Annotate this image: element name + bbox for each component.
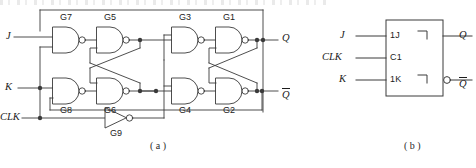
gate-g4-bubble	[198, 88, 204, 94]
gate-g2-bubble	[242, 88, 248, 94]
node-dot-g5-out	[138, 38, 142, 42]
node-dot-qbar-b	[260, 89, 264, 93]
output-label-qbar: Q	[282, 84, 290, 102]
node-dot-clk	[38, 116, 42, 120]
node-dot-g6-branch	[154, 89, 158, 93]
input-label-k: K	[5, 82, 12, 93]
symbol-b-out-bubble	[444, 77, 451, 84]
gate-g8-bubble	[79, 88, 85, 94]
symbol-b-output-label-qbar-text: Q	[459, 77, 467, 90]
gate-label-g4: G4	[179, 106, 191, 115]
gate-g8-body	[53, 78, 79, 104]
gate-label-g9: G9	[110, 129, 122, 138]
wire-g5-cc-a	[90, 48, 97, 63]
symbol-b-input-label-clk: CLK	[322, 52, 342, 63]
node-dot-qbar-a	[255, 89, 259, 93]
node-dot-k	[38, 86, 42, 90]
inverter-g9-bubble	[126, 115, 132, 121]
symbol-b-pin-label-c1: C1	[390, 53, 402, 62]
input-label-clk: CLK	[0, 112, 20, 123]
gate-g6-bubble	[123, 88, 129, 94]
output-label-q: Q	[282, 33, 290, 44]
wire-g6-cc-a	[90, 68, 97, 83]
gate-g4-body	[172, 78, 198, 104]
figure-root: G7 G5 G3 G1 G8 G6 G4 G2 G9 J K CLK Q Q (…	[0, 0, 476, 168]
circuit-a-wires	[14, 10, 278, 128]
symbol-b-graphics	[356, 20, 472, 96]
symbol-b-input-label-j: J	[340, 30, 345, 41]
gate-label-g2: G2	[223, 106, 235, 115]
symbol-b-output-label-qbar: Q	[459, 73, 467, 91]
gate-g1-bubble	[242, 37, 248, 43]
gate-g5-bubble	[123, 37, 129, 43]
node-dot-q-a	[255, 38, 259, 42]
gate-g6-body	[97, 78, 123, 104]
symbol-b-pin-label-1j: 1J	[390, 31, 400, 40]
gate-g1-body	[216, 27, 242, 53]
gate-label-g3: G3	[179, 13, 191, 22]
gate-label-g5: G5	[104, 13, 116, 22]
gate-label-g6: G6	[104, 106, 116, 115]
symbol-b-input-label-k: K	[339, 74, 346, 85]
gate-g7-body	[53, 27, 79, 53]
gate-g2-body	[216, 78, 242, 104]
node-dot-q-b	[261, 38, 265, 42]
output-label-qbar-text: Q	[282, 88, 290, 101]
gate-label-g7: G7	[60, 13, 72, 22]
gate-label-g1: G1	[223, 13, 235, 22]
wire-g1-cc-a	[209, 48, 216, 63]
symbol-b-pin-label-1k: 1K	[390, 75, 402, 84]
gate-g3-bubble	[198, 37, 204, 43]
caption-a: ( a )	[150, 141, 166, 151]
input-label-j: J	[6, 31, 11, 42]
gate-g3-body	[172, 27, 198, 53]
gate-g5-body	[97, 27, 123, 53]
symbol-b-output-label-q: Q	[459, 30, 467, 41]
caption-b: ( b )	[404, 141, 421, 151]
gate-g7-bubble	[79, 37, 85, 43]
wire-g2-cc-a	[209, 68, 216, 83]
gate-label-g8: G8	[60, 106, 72, 115]
